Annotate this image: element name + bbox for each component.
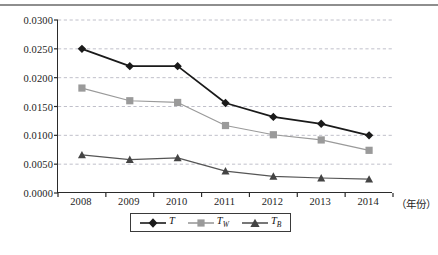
legend-entry-tw[interactable]: TW: [188, 215, 229, 229]
top-rule-divider: [0, 4, 438, 6]
plot-area: [57, 20, 392, 193]
data-point-diamond: [365, 131, 373, 139]
legend-marker-triangle-icon: [242, 217, 268, 229]
legend-label-tb: TB: [271, 215, 281, 229]
legend-marker-diamond-icon: [140, 217, 166, 229]
x-tick-label: 2012: [262, 196, 283, 207]
x-tick-label: 2011: [214, 196, 235, 207]
data-point-square: [270, 131, 277, 138]
chart-legend: T TW TB: [130, 213, 291, 232]
y-tick-label: 0.0250: [24, 43, 53, 54]
y-tick-label: 0.0300: [24, 15, 53, 26]
y-tick-label: 0.0200: [24, 72, 53, 83]
y-tick-label: 0.0100: [24, 130, 53, 141]
x-tick-label: 2008: [70, 196, 91, 207]
x-tick-label: 2009: [118, 196, 139, 207]
data-point-diamond: [78, 45, 86, 53]
legend-entry-tb[interactable]: TB: [242, 215, 281, 229]
series-line: [82, 88, 369, 150]
data-point-diamond: [126, 62, 134, 70]
series-line: [82, 155, 369, 179]
legend-label-tw: TW: [217, 215, 229, 229]
x-axis-unit-note: （年份）: [396, 196, 436, 211]
x-tick-label: 2014: [357, 196, 378, 207]
data-point-square: [126, 97, 133, 104]
x-tick-label: 2010: [166, 196, 187, 207]
series-t-w: [78, 84, 372, 153]
x-axis-tick-labels: 2008 2009 2010 2011 2012 2013 2014: [57, 196, 392, 212]
data-point-square: [318, 136, 325, 143]
legend-label-tw-sub: W: [223, 221, 229, 230]
gridlines: [58, 20, 393, 164]
y-tick-label: 0.0050: [24, 159, 53, 170]
data-point-diamond: [317, 120, 325, 128]
y-tick-label: 0.0000: [24, 188, 53, 199]
legend-label-t: T: [169, 215, 175, 229]
legend-entry-t[interactable]: T: [140, 215, 175, 229]
data-point-square: [174, 99, 181, 106]
chart-canvas: [58, 20, 393, 193]
chart-figure: 0.0300 0.0250 0.0200 0.0150 0.0100 0.005…: [0, 0, 438, 255]
legend-label-tb-sub: B: [277, 221, 282, 230]
legend-marker-square-icon: [188, 217, 214, 229]
y-axis-ticks: [54, 20, 58, 193]
series-t-b: [78, 151, 373, 183]
series-layer: [78, 45, 374, 183]
y-axis-tick-labels: 0.0300 0.0250 0.0200 0.0150 0.0100 0.005…: [0, 20, 53, 193]
legend-label-t-base: T: [169, 215, 175, 226]
x-tick-label: 2013: [310, 196, 331, 207]
data-point-square: [222, 122, 229, 129]
y-tick-label: 0.0150: [24, 101, 53, 112]
data-point-diamond: [269, 113, 277, 121]
data-point-square: [78, 84, 85, 91]
data-point-square: [365, 147, 372, 154]
